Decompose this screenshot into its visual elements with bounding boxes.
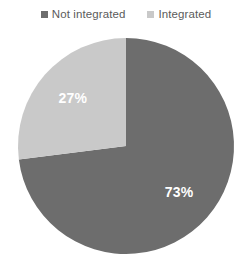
slice-data-label-not-integrated: 73% <box>165 184 194 200</box>
pie-chart-svg: 73% 27% <box>0 0 252 267</box>
pie-chart: 73% 27% <box>0 0 252 267</box>
slice-data-label-integrated: 27% <box>59 90 88 106</box>
pie-slices <box>18 38 234 254</box>
